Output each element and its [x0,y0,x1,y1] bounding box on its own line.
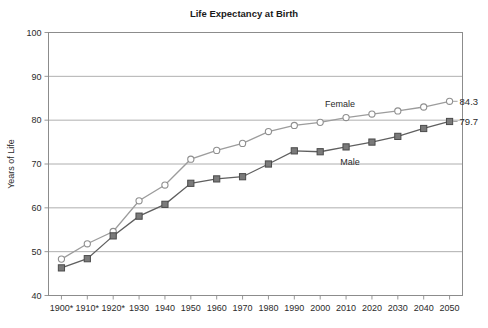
data-point-marker [214,176,220,182]
data-point-marker [136,213,142,219]
x-tick-label: 1940 [155,303,175,313]
data-point-marker [343,114,349,120]
x-tick-label: 1900* [50,303,74,313]
data-point-marker [369,111,375,117]
x-tick-label: 1960 [207,303,227,313]
data-point-marker [265,128,271,134]
data-point-marker [265,161,271,167]
data-point-marker [291,148,297,154]
data-point-marker [214,147,220,153]
data-point-marker [136,198,142,204]
data-point-marker [58,256,64,262]
x-tick-label: 2030 [388,303,408,313]
y-tick-label: 60 [31,203,41,213]
y-axis-title: Years of Life [6,139,16,189]
x-tick-label: 2010 [336,303,356,313]
data-point-marker [421,104,427,110]
data-point-marker [446,118,452,124]
data-point-marker [162,201,168,207]
data-point-marker [291,122,297,128]
data-point-marker [110,233,116,239]
x-tick-label: 1990 [284,303,304,313]
series-label-female: Female [325,99,355,109]
y-tick-label: 70 [31,159,41,169]
x-tick-label: 2040 [414,303,434,313]
x-tick-label: 1920* [101,303,125,313]
data-point-marker [395,133,401,139]
x-tick-label: 2020 [362,303,382,313]
data-point-marker [162,182,168,188]
x-tick-label: 1910* [76,303,100,313]
data-point-marker [239,140,245,146]
x-tick-label: 2050 [440,303,460,313]
x-tick-label: 1950 [181,303,201,313]
y-tick-label: 80 [31,115,41,125]
y-tick-label: 50 [31,247,41,257]
data-point-marker [58,265,64,271]
series-label-male: Male [340,157,360,167]
data-point-marker [421,125,427,131]
data-point-marker [84,256,90,262]
end-value-label: 79.7 [460,116,479,127]
end-value-label: 84.3 [460,96,479,107]
x-tick-label: 1930 [129,303,149,313]
data-point-marker [369,139,375,145]
data-point-marker [84,241,90,247]
data-point-marker [395,108,401,114]
chart-canvas: Life Expectancy at Birth 405060708090100… [0,0,488,328]
data-point-marker [317,119,323,125]
data-point-marker [446,98,452,104]
x-tick-label: 1970 [233,303,253,313]
data-point-marker [343,144,349,150]
data-point-marker [317,149,323,155]
y-tick-label: 90 [31,72,41,82]
y-tick-label: 100 [26,28,41,38]
data-point-marker [188,180,194,186]
data-point-marker [239,174,245,180]
data-point-marker [188,156,194,162]
y-tick-label: 40 [31,291,41,301]
x-tick-label: 2000 [310,303,330,313]
life-expectancy-chart: Life Expectancy at Birth 405060708090100… [0,0,488,328]
x-tick-label: 1980 [258,303,278,313]
chart-title: Life Expectancy at Birth [190,8,298,19]
